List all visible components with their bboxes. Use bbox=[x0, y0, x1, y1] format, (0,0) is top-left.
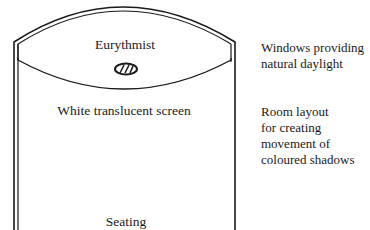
eurythmist-label: Eurythmist bbox=[95, 37, 155, 53]
eurythmist-figure-icon bbox=[115, 64, 137, 75]
screen-label: White translucent screen bbox=[57, 103, 190, 119]
annotation-line: natural daylight bbox=[261, 56, 364, 72]
annotation-line: movement of bbox=[261, 136, 355, 152]
annotation-line: for creating bbox=[261, 120, 355, 136]
seating-label: Seating bbox=[106, 214, 147, 230]
annotation-line: Room layout bbox=[261, 104, 355, 120]
room-layout-annotation: Room layout for creating movement of col… bbox=[261, 104, 355, 168]
windows-annotation: Windows providing natural daylight bbox=[261, 40, 364, 72]
annotation-line: coloured shadows bbox=[261, 152, 355, 168]
annotation-line: Windows providing bbox=[261, 40, 364, 56]
